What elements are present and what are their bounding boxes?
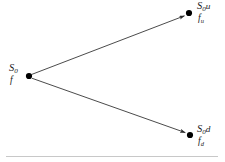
node-up-dot	[186, 10, 192, 16]
node-down-dot	[187, 132, 193, 138]
node-up-derivative-price: fu	[198, 14, 210, 24]
tree-diagram-canvas	[0, 0, 225, 162]
node-root-dot	[26, 73, 32, 79]
down-branch-line	[32, 78, 186, 132]
node-up-label: S0u fu	[197, 1, 210, 24]
node-up-asset-price: S0u	[197, 1, 210, 13]
up-branch-line	[32, 16, 185, 75]
node-root-derivative-price: f	[10, 76, 18, 86]
node-root-label: S0 f	[9, 63, 18, 86]
node-up-derivative-subscript: u	[201, 17, 204, 24]
node-up-multiplier: u	[206, 1, 211, 11]
node-down-asset-price: S0d	[197, 124, 210, 136]
bottom-divider-rule	[6, 156, 218, 157]
node-down-multiplier: d	[206, 124, 211, 134]
node-root-asset-subscript: 0	[14, 67, 18, 75]
node-down-label: S0d fd	[197, 124, 210, 147]
node-down-derivative-subscript: d	[201, 140, 204, 147]
node-root-asset-price: S0	[9, 63, 18, 75]
binomial-tree-figure: S0 f S0u fu S0d fd	[0, 0, 225, 162]
node-down-derivative-price: fd	[198, 137, 210, 147]
